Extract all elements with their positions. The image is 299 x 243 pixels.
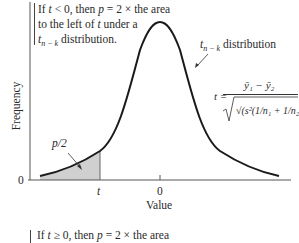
text: distribution. xyxy=(58,33,117,45)
formula-numerator: ȳ₁ − ȳ₂ xyxy=(244,78,274,92)
text: < 0, then xyxy=(52,3,98,15)
text: = 2 × the area xyxy=(103,229,169,241)
y-zero-tick-label: 0 xyxy=(18,173,24,187)
bottom-note-bar xyxy=(30,230,31,243)
x-tick-t: t xyxy=(97,184,100,198)
text: = 2 × the area xyxy=(104,3,170,15)
bottom-note: If t ≥ 0, then p = 2 × the area xyxy=(37,228,169,242)
x-tick-zero: 0 xyxy=(157,184,163,198)
formula-lhs: t = xyxy=(214,90,227,102)
text: distribution xyxy=(220,38,276,50)
text: ≥ 0, then xyxy=(51,229,97,241)
text: n − k xyxy=(203,44,220,53)
p-half-label: p/2 xyxy=(52,136,67,150)
text: under a xyxy=(101,18,138,30)
text: to the left of xyxy=(38,18,97,30)
x-axis-label: Value xyxy=(146,198,172,212)
y-axis-label: Frequency xyxy=(10,76,22,136)
top-note-bar xyxy=(34,3,35,45)
formula-denominator: √(s²(1/n₁ + 1/n₂)) xyxy=(236,104,299,118)
curve-label: tn − k distribution xyxy=(200,37,276,56)
t-distribution-diagram: If t < 0, then p = 2 × the area to the l… xyxy=(0,0,299,243)
text: If xyxy=(38,3,49,15)
text: n − k xyxy=(41,39,58,48)
curve-label-arrowhead xyxy=(195,63,199,68)
top-note-line2: to the left of t under a xyxy=(38,17,138,31)
text: If xyxy=(37,229,48,241)
top-note-line1: If t < 0, then p = 2 × the area xyxy=(38,2,170,16)
fraction-bar xyxy=(223,94,298,95)
top-note-line3: tn − k distribution. xyxy=(38,32,117,51)
